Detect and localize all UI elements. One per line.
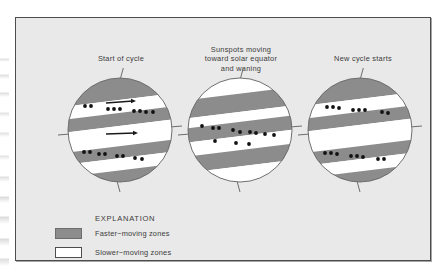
latitude-band-group	[296, 68, 424, 192]
sunspot-marker	[97, 152, 101, 156]
sunspot-marker	[118, 107, 122, 111]
legend-swatch-slower-icon	[55, 247, 82, 258]
legend-label-slower: Slower−moving zones	[95, 248, 171, 257]
sunspot-marker	[83, 104, 87, 108]
scan-artifact-edge	[0, 0, 9, 276]
sunspot-marker	[335, 152, 339, 156]
sunspot-marker	[88, 150, 92, 154]
sunspot-marker	[263, 132, 267, 136]
sunspot-marker	[234, 141, 238, 145]
sunspot-marker	[349, 154, 353, 158]
sunspot-marker	[337, 106, 341, 110]
legend-swatch-faster-icon	[55, 228, 82, 239]
sunspot-marker	[247, 142, 251, 146]
sunspot-marker	[106, 107, 110, 111]
sunspot-marker	[386, 111, 390, 115]
sunspot-marker	[217, 126, 221, 130]
sunspot-marker	[331, 105, 335, 109]
sun-sphere-start-of-cycle	[56, 66, 184, 194]
panel-caption-start-of-cycle: Start of cycle	[62, 54, 180, 63]
sunspot-marker	[351, 108, 355, 112]
sunspot-marker	[254, 131, 258, 135]
sunspot-marker	[138, 109, 142, 113]
sunspot-marker	[231, 128, 235, 132]
sunspot-marker	[376, 157, 380, 161]
sunspot-marker	[211, 126, 215, 130]
sunspot-marker	[213, 139, 217, 143]
sun-sphere-svg	[176, 66, 304, 194]
sunspot-marker	[325, 105, 329, 109]
sunspot-marker	[132, 109, 136, 113]
legend-title: EXPLANATION	[95, 214, 155, 223]
sunspot-marker	[200, 124, 204, 128]
sunspot-marker	[363, 108, 367, 112]
figure-root: Start of cycle Sunspots moving toward so…	[0, 0, 447, 276]
sunspot-marker	[355, 154, 359, 158]
sunspot-marker	[115, 154, 119, 158]
sunspot-marker	[103, 152, 107, 156]
sunspot-marker	[329, 151, 333, 155]
sunspot-marker	[248, 130, 252, 134]
sunspot-marker	[144, 110, 148, 114]
sun-sphere-new-cycle	[296, 66, 424, 194]
sunspot-marker	[272, 133, 276, 137]
sunspot-marker	[82, 150, 86, 154]
sunspot-marker	[121, 154, 125, 158]
sunspot-marker	[357, 108, 361, 112]
sunspot-marker	[380, 110, 384, 114]
sunspot-marker	[151, 110, 155, 114]
sunspot-marker	[89, 104, 93, 108]
latitude-band-group	[56, 68, 184, 192]
sunspot-marker	[382, 157, 386, 161]
sunspot-marker	[361, 155, 365, 159]
latitude-band-group	[176, 68, 304, 192]
sunspot-marker	[323, 151, 327, 155]
sunspot-marker	[238, 130, 242, 134]
sun-sphere-svg	[296, 66, 424, 194]
sunspot-marker	[140, 157, 144, 161]
diagram-panel: Start of cycle Sunspots moving toward so…	[15, 17, 431, 261]
sunspot-marker	[133, 156, 137, 160]
legend-label-faster: Faster−moving zones	[95, 229, 170, 238]
sunspot-marker	[112, 107, 116, 111]
sun-sphere-sunspots-moving	[176, 66, 304, 194]
sun-sphere-svg	[56, 66, 184, 194]
panel-caption-new-cycle: New cycle starts	[304, 54, 422, 63]
